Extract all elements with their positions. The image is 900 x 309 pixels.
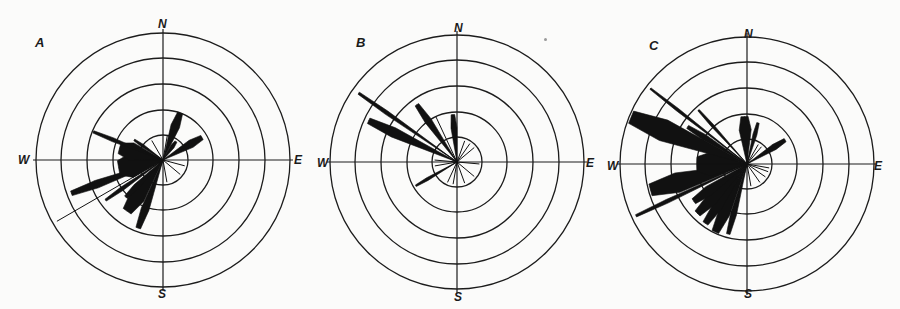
panel-label-b: B <box>356 37 365 49</box>
compass-label-n: N <box>744 28 753 40</box>
petal-spine <box>631 117 747 164</box>
compass-label-n: N <box>454 22 463 34</box>
rose-diagram-c <box>617 33 877 295</box>
compass-label-e: E <box>874 160 882 172</box>
compass-label-s: S <box>454 291 462 303</box>
compass-label-e: E <box>586 157 594 169</box>
panel-label-c: C <box>649 40 658 52</box>
compass-label-w: W <box>607 160 618 172</box>
print-speck <box>544 38 547 41</box>
compass-label-e: E <box>294 154 302 166</box>
compass-label-s: S <box>158 288 166 300</box>
compass-label-s: S <box>744 288 752 300</box>
rose-diagram-b <box>327 31 587 293</box>
compass-label-w: W <box>18 154 29 166</box>
compass-label-n: N <box>158 18 167 30</box>
compass-label-w: W <box>317 157 328 169</box>
rose-diagram-figure <box>0 0 900 309</box>
panel-label-a: A <box>35 37 44 49</box>
rose-diagram-a <box>33 29 293 291</box>
